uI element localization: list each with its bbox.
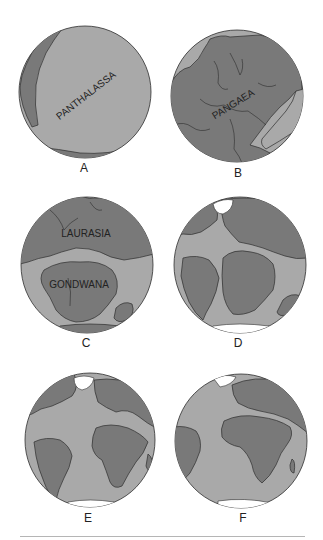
bottom-rule — [20, 536, 305, 537]
map-label-laurasia: LAURASIA — [61, 228, 111, 239]
map-label-gondwana: GONDWANA — [49, 279, 109, 290]
globe-f — [174, 373, 308, 509]
globe-b: PANGAEA — [170, 29, 304, 163]
panel-label-d: D — [228, 336, 248, 350]
panel-label-a: A — [74, 161, 94, 175]
panel-label-b: B — [228, 166, 248, 180]
globe-e — [24, 372, 156, 508]
globe-a: PANTHALASSA — [18, 25, 152, 159]
panel-label-e: E — [78, 511, 98, 525]
globe-c: LAURASIA GONDWANA — [20, 196, 154, 334]
panel-label-f: F — [233, 511, 253, 525]
globe-d — [173, 196, 307, 334]
panel-label-c: C — [76, 336, 96, 350]
